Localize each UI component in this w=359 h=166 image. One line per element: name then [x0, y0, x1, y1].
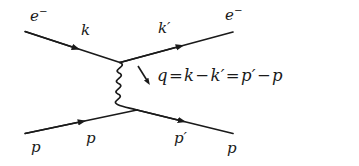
- outgoing-proton-arrow: [137, 110, 182, 121]
- eq-equals-2: =: [225, 66, 241, 85]
- eq-term-q: q: [157, 66, 168, 85]
- incoming-electron-momentum-label: k: [81, 23, 90, 38]
- incoming-electron-charge-superscript: −: [39, 6, 48, 17]
- incoming-proton-particle-label: p: [31, 140, 41, 155]
- outgoing-electron-line: [120, 32, 233, 63]
- momentum-transfer-arrow: [138, 66, 148, 82]
- outgoing-electron-particle-label: e−: [225, 6, 242, 23]
- outgoing-proton-momentum-label: p′: [174, 131, 187, 146]
- eq-term-k: k: [184, 66, 194, 85]
- eq-equals-1: =: [168, 66, 184, 85]
- outgoing-proton-particle-label: p: [227, 141, 237, 156]
- outgoing-electron-arrow: [120, 46, 180, 62]
- eq-minus-2: −: [256, 66, 272, 85]
- incoming-proton-line: [25, 110, 137, 134]
- outgoing-electron-charge-superscript: −: [234, 5, 243, 16]
- momentum-transfer-equation: q=k−k′=p′−p: [157, 68, 283, 85]
- incoming-proton-momentum-label: p: [86, 131, 96, 146]
- eq-term-p-prime: p′: [241, 66, 256, 85]
- photon-propagator-wavy-line: [115, 63, 137, 111]
- feynman-diagram: e− k k′ e− q=k−k′=p′−p p p p′ p: [0, 0, 359, 166]
- eq-term-k-prime: k′: [210, 66, 224, 85]
- eq-term-p: p: [272, 66, 283, 85]
- incoming-electron-arrow: [25, 32, 76, 49]
- eq-minus-1: −: [194, 66, 210, 85]
- incoming-proton-arrow: [25, 122, 82, 134]
- incoming-electron-particle-label: e−: [30, 7, 47, 24]
- incoming-electron-line: [25, 32, 120, 63]
- outgoing-electron-momentum-label: k′: [158, 21, 171, 36]
